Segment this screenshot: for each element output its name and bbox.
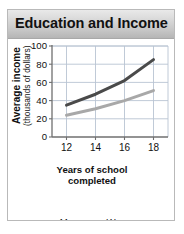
svg-text:12: 12	[61, 142, 73, 153]
line-chart-svg: 02040608010012141618	[8, 40, 175, 165]
svg-text:18: 18	[148, 142, 160, 153]
svg-text:14: 14	[90, 142, 102, 153]
svg-text:60: 60	[36, 77, 47, 88]
svg-text:16: 16	[119, 142, 131, 153]
svg-text:20: 20	[36, 113, 47, 124]
chart-legend: MenWomen	[8, 216, 175, 221]
svg-text:100: 100	[31, 40, 47, 51]
legend-swatch-women-icon	[91, 220, 102, 221]
chart-plot-region: Average income (thousands of dollars) 02…	[8, 40, 175, 192]
legend-swatch-men-icon	[45, 220, 56, 221]
legend-label-women: Women	[106, 216, 139, 221]
svg-text:40: 40	[36, 95, 47, 106]
x-axis-title: Years of school completed	[8, 165, 175, 186]
x-axis-title-line-2: completed	[8, 176, 175, 187]
legend-item-men: Men	[45, 216, 79, 221]
svg-text:0: 0	[42, 131, 47, 142]
chart-title: Education and Income	[15, 15, 168, 31]
svg-text:80: 80	[36, 59, 47, 70]
figure-card: Education and Income Average income (tho…	[7, 9, 175, 221]
legend-label-men: Men	[60, 216, 79, 221]
chart-title-bar: Education and Income	[8, 10, 174, 39]
legend-item-women: Women	[91, 216, 139, 221]
